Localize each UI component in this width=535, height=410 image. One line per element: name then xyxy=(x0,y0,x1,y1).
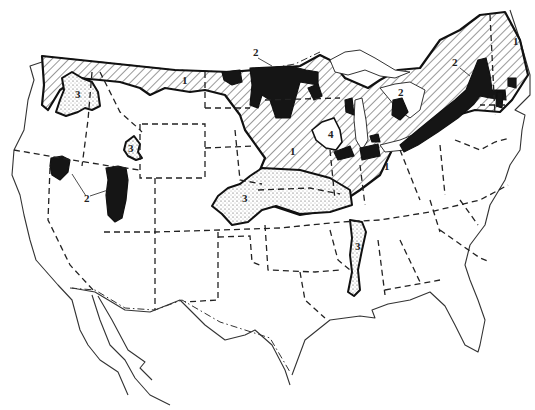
label-1-maine: 1 xyxy=(513,35,519,47)
mexico-border xyxy=(70,288,290,372)
label-3-kansas: 3 xyxy=(242,192,248,204)
map-canvas: 1 1 1 1 2 2 2 2 3 3 3 3 4 xyxy=(0,0,535,410)
label-3-mississippi: 3 xyxy=(355,240,361,252)
label-4-wisconsin: 4 xyxy=(328,128,334,140)
label-1-ohio: 1 xyxy=(384,160,390,172)
label-2-nevada: 2 xyxy=(84,192,90,204)
label-3-idaho: 3 xyxy=(75,88,81,100)
label-1-minnesota: 1 xyxy=(290,145,296,157)
label-3-wyoming: 3 xyxy=(128,142,134,154)
label-2-quebec: 2 xyxy=(452,56,458,68)
label-1-montana: 1 xyxy=(182,74,188,86)
label-2-ontario: 2 xyxy=(398,86,404,98)
label-2-canada-border: 2 xyxy=(253,46,259,58)
